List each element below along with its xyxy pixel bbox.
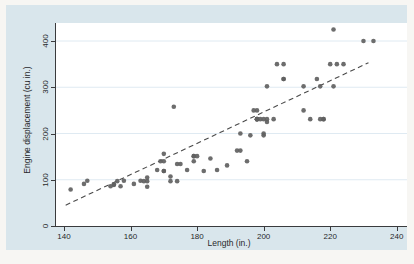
data-point <box>175 179 180 184</box>
y-tick-label-100: 100 <box>41 173 50 186</box>
data-point <box>208 156 213 161</box>
x-tick-180 <box>197 227 198 231</box>
data-point <box>331 27 336 32</box>
y-tick-200 <box>51 134 55 135</box>
data-point <box>85 178 90 183</box>
data-point <box>341 62 346 67</box>
data-point <box>245 159 250 164</box>
data-point <box>255 108 260 113</box>
y-axis-title: Engine displacement (cu in.) <box>22 66 32 173</box>
x-tick-160 <box>131 227 132 231</box>
data-point <box>162 169 167 174</box>
y-tick-label-400: 400 <box>41 34 50 47</box>
data-point <box>191 159 196 164</box>
scatter-chart: 140160180200220240 0100200300400 Length … <box>6 5 407 250</box>
data-point <box>321 117 326 122</box>
plot-canvas <box>56 23 407 226</box>
data-point <box>215 168 220 173</box>
data-point <box>238 148 243 153</box>
data-point <box>115 179 120 184</box>
data-point <box>265 117 270 122</box>
data-point <box>195 154 200 159</box>
data-point <box>318 84 323 89</box>
data-point <box>281 62 286 67</box>
data-point <box>132 182 137 187</box>
data-point <box>238 131 243 136</box>
x-tick-140 <box>64 227 65 231</box>
x-tick-label-240: 240 <box>390 232 403 241</box>
data-point <box>168 174 173 179</box>
x-tick-200 <box>264 227 265 231</box>
y-tick-100 <box>51 180 55 181</box>
x-axis-title: Length (in.) <box>208 238 251 248</box>
data-point <box>308 117 313 122</box>
data-point <box>145 184 150 189</box>
x-tick-220 <box>330 227 331 231</box>
data-point <box>185 168 190 173</box>
y-tick-400 <box>51 41 55 42</box>
x-tick-label-160: 160 <box>124 232 137 241</box>
data-point <box>335 62 340 67</box>
data-point <box>172 104 177 109</box>
y-tick-label-0: 0 <box>41 224 50 228</box>
data-point <box>315 77 320 82</box>
data-point <box>275 62 280 67</box>
data-point <box>112 182 117 187</box>
data-point <box>155 168 160 173</box>
data-point <box>281 77 286 82</box>
data-point <box>328 62 333 67</box>
y-tick-300 <box>51 87 55 88</box>
data-point <box>261 131 266 136</box>
data-point <box>201 169 206 174</box>
data-point <box>331 84 336 89</box>
data-point <box>178 162 183 167</box>
plot-region <box>55 23 407 227</box>
y-tick-label-200: 200 <box>41 127 50 140</box>
data-point <box>371 39 376 44</box>
data-point <box>248 133 253 138</box>
y-tick-0 <box>51 226 55 227</box>
data-point <box>168 179 173 184</box>
data-point <box>271 117 276 122</box>
data-point <box>301 108 306 113</box>
data-point <box>82 182 87 187</box>
data-point <box>145 175 150 180</box>
data-point <box>162 152 167 157</box>
x-tick-label-200: 200 <box>257 232 270 241</box>
x-tick-240 <box>397 227 398 231</box>
data-point <box>68 187 73 192</box>
x-tick-label-140: 140 <box>57 232 70 241</box>
x-tick-label-220: 220 <box>324 232 337 241</box>
data-point <box>301 84 306 89</box>
data-point <box>122 178 127 183</box>
data-point <box>265 84 270 89</box>
y-tick-label-300: 300 <box>41 81 50 94</box>
data-point <box>225 163 230 168</box>
data-point <box>118 184 123 189</box>
x-tick-label-180: 180 <box>190 232 203 241</box>
data-point <box>162 159 167 164</box>
data-point <box>361 39 366 44</box>
